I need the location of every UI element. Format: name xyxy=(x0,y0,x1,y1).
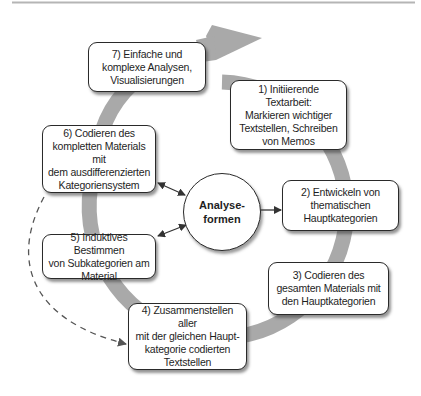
step-1-label: 1) Initiierende Textarbeit: Markieren wi… xyxy=(235,83,342,148)
step-4-box: 4) Zusammenstellen aller mit der gleiche… xyxy=(128,303,247,370)
diagram-canvas: 7) Einfache und komplexe Analysen, Visua… xyxy=(0,0,421,396)
arrow-center-to-5 xyxy=(158,225,186,236)
step-7-label: 7) Einfache und komplexe Analysen, Visua… xyxy=(102,48,192,87)
step-1-box: 1) Initiierende Textarbeit: Markieren wi… xyxy=(230,80,347,150)
step-7-box: 7) Einfache und komplexe Analysen, Visua… xyxy=(88,42,206,92)
arrow-center-to-6 xyxy=(158,183,185,195)
center-node-analyseformen: Analyse- formen xyxy=(183,173,261,251)
step-6-label: 6) Codieren des kompletten Materials mit… xyxy=(47,127,151,192)
step-6-box: 6) Codieren des kompletten Materials mit… xyxy=(42,125,156,193)
step-5-label: 5) Induktives Bestimmen von Subkategorie… xyxy=(47,231,151,283)
step-4-label: 4) Zusammenstellen aller mit der gleiche… xyxy=(133,304,242,369)
step-3-box: 3) Codieren des gesamten Materials mit d… xyxy=(268,262,389,315)
step-3-label: 3) Codieren des gesamten Materials mit d… xyxy=(276,269,380,308)
step-2-box: 2) Entwickeln von thematischen Hauptkate… xyxy=(282,180,399,231)
step-5-box: 5) Induktives Bestimmen von Subkategorie… xyxy=(42,234,156,279)
center-label: Analyse- formen xyxy=(199,198,245,226)
step-2-label: 2) Entwickeln von thematischen Hauptkate… xyxy=(301,186,380,225)
